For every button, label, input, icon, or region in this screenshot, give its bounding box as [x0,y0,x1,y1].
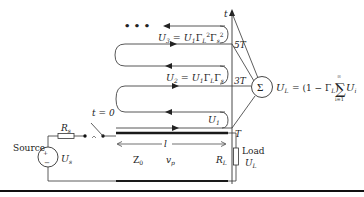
u1-bracket [220,112,228,128]
sum-term: Ui [346,82,356,94]
load-voltage-label: UL [245,158,257,169]
continuation-dots: • • • [124,20,150,31]
switch-pivot-icon [92,136,96,138]
formula-lhs: UL [276,82,288,94]
u1-label: U1 [208,114,220,126]
time-axis-label: t [224,9,228,19]
u3-label: U3 = U1ΓL2Γs2 [158,31,224,44]
source-label: Source [13,143,45,153]
rl-label: RL [215,155,227,166]
sum-line-T [232,96,255,128]
transmission-line-bounce-diagram: t 5T 3T T Σ UL = (1 − ΓL) ∑ ∞ i=1 Ui [0,0,364,197]
line-length-label: l [164,139,167,149]
summation-node: Σ [232,13,273,128]
vp-label: vp [166,155,175,167]
loop-3T [116,86,232,112]
sum-lower-limit: i=1 [335,96,344,102]
u3-arrow-icon [163,23,170,29]
tick-3T: 3T [234,76,247,86]
loop-5T [115,44,232,66]
formula-mid: = (1 − ΓL) [292,83,339,94]
source-minus-sign: − [44,159,50,167]
u2-label: U2 = U1ΓLΓs [166,72,224,84]
load-voltage-formula: UL = (1 − ΓL) ∑ ∞ i=1 Ui [276,73,356,102]
rs-resistor-icon [58,134,74,139]
time-axis-arrow-icon [229,9,235,16]
sigma-icon: Σ [257,81,263,93]
load-label: Load [242,146,265,156]
rl-resistor-icon [234,148,239,165]
switch-time-label: t = 0 [92,108,115,118]
switch-blade-icon [91,123,103,136]
rs-label: Rs [60,123,71,134]
sum-upper-limit: ∞ [337,73,341,79]
u1-arrow-icon [165,109,172,115]
z0-label: Z0 [133,155,143,166]
forward-wave-arrow-icon [172,125,179,131]
switch-contact-left [83,134,86,137]
u2-arrow-icon [165,63,172,69]
source-voltage-label: Us [61,153,72,165]
